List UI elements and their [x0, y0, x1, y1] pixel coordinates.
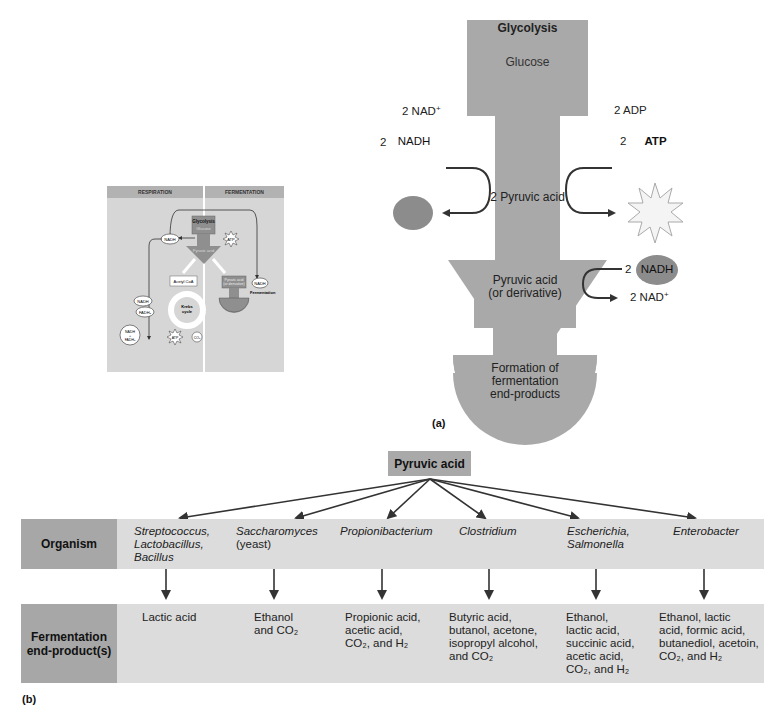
endproduct-cell: Lactic acid [142, 611, 196, 624]
overview-thumbnail: RESPIRATION FERMENTATION Glycolysis Gluc… [107, 186, 284, 372]
svg-text:NADH: NADH [137, 299, 148, 304]
nadh-in-coef: 2 [625, 263, 631, 275]
endproduct-cell: Ethanol, lactic acid, succinic acid, ace… [566, 611, 634, 676]
nad-out-label: 2 NAD+ [630, 291, 669, 303]
atp-coef: 2 [620, 135, 626, 147]
svg-text:Pyruvic acid: Pyruvic acid [193, 248, 215, 253]
svg-text:Glucose: Glucose [196, 226, 211, 231]
adp-in-label: 2 ADP [614, 104, 647, 116]
nadh-label: NADH [396, 135, 432, 147]
atp-star-icon [628, 183, 683, 243]
svg-text:cycle: cycle [182, 309, 193, 314]
organism-cell: Streptococcus, Lactobacillus, Bacillus [134, 525, 210, 564]
svg-text:FADH₂: FADH₂ [139, 310, 152, 315]
nadh-oval [393, 196, 433, 230]
thumbnail-diagram: Glycolysis Glucose Pyruvic acid NADH ATP… [107, 186, 284, 372]
organism-cell: Saccharomyces (yeast) [236, 525, 318, 551]
endproduct-cell: Butyric acid, butanol, acetone, isopropy… [449, 611, 538, 663]
glycolysis-title: Glycolysis [467, 21, 588, 35]
organism-row [117, 519, 764, 569]
endproducts-label: Formation of fermentation end-products [453, 362, 597, 401]
nad-in-label: 2 NAD+ [402, 105, 441, 117]
nadh-coef: 2 [380, 136, 386, 148]
svg-text:NADH: NADH [254, 281, 265, 286]
organism-cell: Clostridium [459, 525, 517, 538]
organism-cell: Enterobacter [673, 525, 739, 538]
svg-text:Glycolysis: Glycolysis [192, 219, 215, 224]
organism-cell: Escherichia, Salmonella [567, 525, 630, 551]
organism-cell: Propionibacterium [340, 525, 433, 538]
svg-text:CO₂: CO₂ [194, 336, 201, 340]
svg-text:ATP: ATP [172, 336, 179, 340]
glucose-label: Glucose [467, 55, 588, 69]
endproduct-cell: Propionic acid, acetic acid, CO₂, and H₂ [345, 611, 420, 650]
endproduct-cell: Ethanol and CO₂ [254, 611, 298, 637]
atp-label: ATP [638, 135, 673, 147]
endproduct-header: Fermentation end-product(s) [21, 604, 117, 683]
svg-text:(or derivative): (or derivative) [223, 282, 244, 286]
svg-text:FADH₂: FADH₂ [125, 338, 136, 342]
panel-a-label: (a) [432, 417, 445, 429]
svg-text:NADH: NADH [164, 237, 175, 242]
svg-text:Acetyl CoA: Acetyl CoA [174, 279, 194, 284]
nadh-in-label: NADH [637, 263, 677, 275]
svg-text:ATP: ATP [227, 237, 235, 242]
organism-header: Organism [21, 519, 117, 569]
fermentation-box-label: Pyruvic acid (or derivative) [474, 274, 576, 300]
endproduct-cell: Ethanol, lactic acid, formic acid, butan… [659, 611, 759, 663]
svg-text:Fermentation: Fermentation [250, 290, 276, 295]
pyruvic-output-label: 2 Pyruvic acid [467, 190, 588, 204]
panel-b-label: (b) [22, 693, 36, 705]
